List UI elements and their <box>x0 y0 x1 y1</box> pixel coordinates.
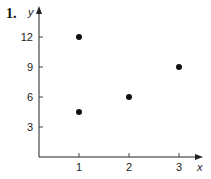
x-tick-label: 2 <box>126 161 132 173</box>
data-point <box>176 64 182 70</box>
data-point <box>76 34 82 40</box>
y-tick-label: 9 <box>27 61 33 73</box>
y-tick-label: 12 <box>21 31 33 43</box>
y-tick-label: 3 <box>27 121 33 133</box>
x-ticks: 1 2 3 <box>76 153 182 173</box>
data-point <box>76 109 82 115</box>
data-points <box>76 34 182 115</box>
scatter-plot: y x 3 6 9 12 1 2 3 <box>0 0 211 179</box>
y-axis-arrow-icon <box>36 6 42 14</box>
y-axis-label: y <box>27 6 35 18</box>
x-axis-label: x <box>196 161 203 173</box>
x-tick-label: 1 <box>76 161 82 173</box>
y-ticks: 3 6 9 12 <box>21 31 43 133</box>
x-axis-arrow-icon <box>195 154 203 160</box>
data-point <box>126 94 132 100</box>
y-tick-label: 6 <box>27 91 33 103</box>
x-tick-label: 3 <box>176 161 182 173</box>
